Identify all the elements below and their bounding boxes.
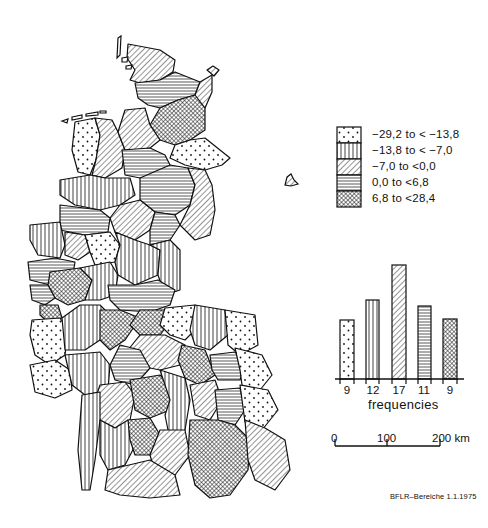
region-berlin (285, 174, 298, 186)
region (30, 222, 65, 258)
region (188, 420, 250, 498)
legend-label: −29,2 to < −13,8 (372, 128, 459, 140)
region (225, 310, 258, 355)
choropleth-map (0, 0, 488, 528)
region (190, 305, 228, 350)
island (72, 115, 82, 120)
island (100, 111, 106, 113)
region (245, 420, 290, 490)
legend-item-vertical: −13,8 to < −7,0 (337, 143, 487, 159)
scale-tick-200: 200 km (432, 432, 470, 444)
hist-bar-4 (418, 306, 431, 379)
histogram (335, 265, 464, 384)
source-caption: BFLR–Bereiche 1.1.1975 (390, 492, 476, 501)
hist-bar-1 (340, 320, 354, 379)
legend: −29,2 to < −13,8 −13,8 to < −7,0 −7,0 to… (337, 127, 487, 207)
legend-label: 6,8 to <28,4 (372, 192, 435, 204)
legend-item-diagonal: −7,0 to <0,0 (337, 159, 487, 175)
legend-label: −7,0 to <0,0 (372, 160, 436, 172)
region (78, 392, 100, 490)
legend-item-horizontal: 0,0 to <6,8 (337, 175, 487, 191)
legend-label: 0,0 to <6,8 (372, 176, 429, 188)
hist-value-label: 9 (438, 384, 462, 396)
region (207, 66, 219, 76)
hist-bar-5 (443, 319, 457, 379)
hist-bar-3 (392, 265, 406, 379)
island (126, 65, 132, 69)
region (108, 280, 175, 312)
legend-item-crosshatch: 6,8 to <28,4 (337, 191, 487, 207)
hist-value-label: 12 (361, 384, 385, 396)
region (215, 388, 245, 425)
legend-item-dots: −29,2 to < −13,8 (337, 127, 487, 143)
region (85, 232, 120, 265)
hist-value-label: 9 (335, 384, 359, 396)
region (30, 360, 72, 398)
island (86, 112, 98, 116)
island (62, 119, 68, 123)
scale-tick-0: 0 (331, 432, 337, 444)
scale-tick-100: 100 (377, 432, 396, 444)
hist-bar-2 (366, 300, 379, 379)
island (122, 57, 128, 62)
map-regions (28, 44, 290, 498)
hist-value-label: 17 (387, 384, 411, 396)
legend-label: −13,8 to < −7,0 (372, 144, 453, 156)
histogram-axis-label: frequencies (368, 397, 439, 412)
region (150, 212, 180, 245)
hist-value-label: 11 (412, 384, 436, 396)
region (235, 348, 272, 390)
island (117, 36, 121, 58)
